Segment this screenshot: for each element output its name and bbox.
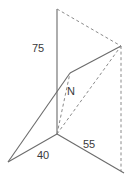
width-dimension-label: 55 — [83, 139, 95, 150]
height-dimension-label: 75 — [32, 43, 44, 54]
geometry-figure: 75 40 55 N — [0, 0, 133, 180]
dashed-top-edge — [57, 9, 121, 46]
depth-dimension-label: 40 — [37, 150, 49, 161]
point-n-label: N — [67, 86, 75, 97]
solid-depth-base-edge — [8, 134, 57, 162]
solid-apex-to-bend-edge — [70, 46, 121, 73]
